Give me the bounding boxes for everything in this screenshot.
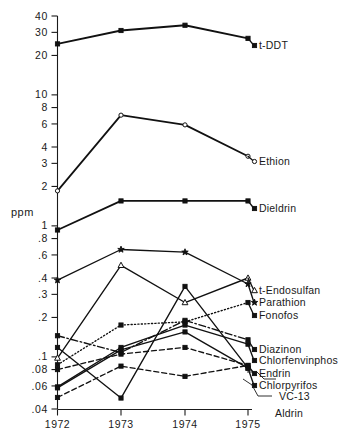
chart-canvas: 40302010864321.8.6.4.3.2.1.08.06.04 1972… xyxy=(0,0,339,446)
data-point-marker xyxy=(55,345,59,349)
y-tick-label: 8 xyxy=(42,101,48,113)
series-t-ddt xyxy=(55,23,250,46)
y-axis-title: ppm xyxy=(11,206,34,218)
data-point-marker xyxy=(183,23,187,27)
label-connector xyxy=(248,156,257,163)
y-tick-label: 40 xyxy=(35,10,48,22)
data-point-marker xyxy=(55,367,59,371)
data-point-marker xyxy=(252,313,256,317)
data-point-marker xyxy=(119,113,123,117)
series-dieldrin xyxy=(55,199,250,232)
series-label-endrin: Endrin xyxy=(259,367,291,379)
data-series-layer xyxy=(54,23,257,400)
y-tick-label: .3 xyxy=(38,288,48,300)
data-point-marker xyxy=(252,358,256,362)
data-point-marker xyxy=(252,159,256,163)
x-tick-label: 1973 xyxy=(108,418,133,430)
x-tick-label: 1975 xyxy=(235,418,260,430)
y-tick-label: 2 xyxy=(42,180,48,192)
data-point-marker xyxy=(251,299,257,305)
series-labels: t-DDT Ethion Dieldrin t-Endosulfan Parat… xyxy=(259,39,338,419)
series-label-t-ddt: t-DDT xyxy=(259,39,288,51)
y-tick-label: 30 xyxy=(35,26,48,38)
y-tick-label: .6 xyxy=(38,249,48,261)
data-point-marker xyxy=(119,28,123,32)
series-label-dieldrin: Dieldrin xyxy=(259,202,296,214)
x-axis: 1972197319741975 xyxy=(45,410,261,431)
y-tick-label: .2 xyxy=(38,311,48,323)
data-point-marker xyxy=(55,386,59,390)
data-point-marker xyxy=(55,334,59,338)
data-point-marker xyxy=(183,318,187,322)
data-point-marker xyxy=(55,228,59,232)
series-line xyxy=(58,250,249,284)
series-line xyxy=(58,347,249,369)
series-line xyxy=(58,286,249,398)
y-tick-label: .06 xyxy=(32,380,48,392)
series-label-parathion: Parathion xyxy=(259,296,306,308)
series-label-aldrin: Aldrin xyxy=(275,407,303,419)
x-tick-label: 1972 xyxy=(45,418,70,430)
series-line xyxy=(58,25,249,44)
chart-figure: 40302010864321.8.6.4.3.2.1.08.06.04 1972… xyxy=(0,0,339,446)
y-tick-label: 6 xyxy=(42,118,48,130)
series-parathion xyxy=(54,246,251,287)
series-line xyxy=(58,325,249,387)
series-label-fonofos: Fonofos xyxy=(259,309,298,321)
x-tick-marks xyxy=(58,410,249,416)
data-point-marker xyxy=(55,189,59,193)
series-line xyxy=(58,303,249,365)
data-point-marker xyxy=(55,42,59,46)
y-tick-label: .4 xyxy=(38,272,48,284)
data-point-marker xyxy=(252,347,256,351)
data-point-marker xyxy=(252,43,256,47)
y-tick-label: .08 xyxy=(32,363,48,375)
y-tick-marks xyxy=(52,16,58,409)
data-point-marker xyxy=(183,284,187,288)
data-point-marker xyxy=(183,330,187,334)
x-tick-labels: 1972197319741975 xyxy=(45,418,261,430)
data-point-marker xyxy=(119,323,123,327)
data-point-marker xyxy=(183,123,187,127)
y-tick-label: 20 xyxy=(35,49,48,61)
series-line xyxy=(58,115,249,191)
y-tick-label: .8 xyxy=(38,232,48,244)
data-point-marker xyxy=(119,199,123,203)
y-tick-label: 4 xyxy=(42,141,48,153)
data-point-marker xyxy=(119,396,123,400)
label-connector xyxy=(248,201,257,211)
series-label-chlorfenvinphos: Chlorfenvinphos xyxy=(259,354,338,366)
series-label-vc-13: VC-13 xyxy=(279,390,310,402)
y-axis: 40302010864321.8.6.4.3.2.1.08.06.04 xyxy=(32,10,58,415)
data-point-marker xyxy=(183,323,187,327)
series-label-ethion: Ethion xyxy=(259,155,290,167)
y-tick-label: 1 xyxy=(42,219,48,231)
data-point-marker xyxy=(183,345,187,349)
data-point-marker xyxy=(119,364,123,368)
data-point-marker xyxy=(183,199,187,203)
data-point-marker xyxy=(252,206,256,210)
y-tick-label: 10 xyxy=(35,88,48,100)
data-point-marker xyxy=(119,352,123,356)
x-tick-label: 1974 xyxy=(172,418,197,430)
data-point-marker xyxy=(119,348,123,352)
connector-line xyxy=(248,284,254,303)
series-chlorpyrifos xyxy=(55,330,250,390)
y-tick-label: 3 xyxy=(42,157,48,169)
data-point-marker xyxy=(183,374,187,378)
data-point-marker xyxy=(55,395,59,399)
series-ethion xyxy=(55,113,250,193)
label-connector xyxy=(248,38,257,47)
y-tick-labels: 40302010864321.8.6.4.3.2.1.08.06.04 xyxy=(32,10,48,415)
series-label-t-endosulfan: t-Endosulfan xyxy=(259,284,320,296)
y-tick-label: .04 xyxy=(32,403,48,415)
y-tick-label: .1 xyxy=(38,350,48,362)
data-point-marker xyxy=(55,363,59,367)
series-line xyxy=(58,201,249,230)
series-endrin xyxy=(55,345,250,371)
series-line xyxy=(58,332,249,388)
data-point-marker xyxy=(118,262,124,267)
